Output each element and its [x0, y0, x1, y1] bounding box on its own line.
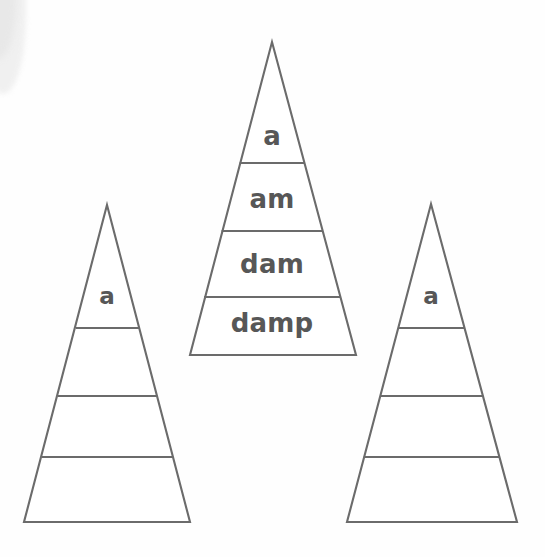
pyramid-center-row-3-label: damp	[231, 310, 314, 336]
pyramid-left[interactable]	[24, 205, 190, 522]
pyramid-right[interactable]	[347, 204, 517, 522]
pyramid-right-body	[347, 204, 517, 522]
worksheet-canvas: a a am dam damp a	[0, 0, 545, 557]
pyramid-left-row-0-label: a	[99, 285, 115, 308]
pyramid-center-row-2-label: dam	[240, 251, 304, 277]
pyramid-left-body	[24, 205, 190, 522]
pyramid-right-row-0-label: a	[423, 285, 439, 308]
pyramid-center-row-0-label: a	[263, 123, 281, 149]
pyramid-center-row-1-label: am	[249, 186, 294, 212]
